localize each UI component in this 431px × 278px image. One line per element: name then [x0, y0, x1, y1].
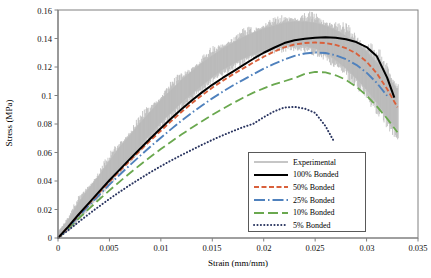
y-tick-label: 0.06 [18, 148, 52, 158]
legend-label: 25% Bonded [290, 196, 335, 205]
x-tick-label: 0.03 [347, 243, 387, 253]
plot-area [0, 0, 431, 278]
legend-item-50-bonded: 50% Bonded [249, 181, 365, 194]
y-tick-label: 0.12 [18, 62, 52, 72]
x-tick-label: 0.01 [141, 243, 181, 253]
legend-swatch-50-bonded [252, 182, 290, 192]
y-tick-label: 0.04 [18, 176, 52, 186]
legend-label: 5% Bonded [290, 221, 331, 230]
legend-item-experimental: Experimental [249, 156, 365, 169]
legend-swatch-100-bonded [252, 170, 290, 180]
x-tick-label: 0.005 [89, 243, 129, 253]
legend-swatch-5-bonded [252, 220, 290, 230]
x-axis-title: Strain (mm/mm) [58, 258, 418, 268]
legend-label: 10% Bonded [290, 208, 335, 217]
y-tick-label: 0.14 [18, 34, 52, 44]
x-tick-label: 0.02 [244, 243, 284, 253]
legend-item-5-bonded: 5% Bonded [249, 219, 365, 232]
x-tick-label: 0.035 [398, 243, 431, 253]
stress-strain-chart: 0.16 0.14 0.12 0.1 0.08 0.06 0.04 0.02 0… [0, 0, 431, 278]
legend-swatch-10-bonded [252, 208, 290, 218]
legend-item-100-bonded: 100% Bonded [249, 169, 365, 182]
x-tick-label: 0.015 [192, 243, 232, 253]
y-tick-label: 0.16 [18, 6, 52, 16]
legend-label: 50% Bonded [290, 183, 335, 192]
y-axis-title: Stress (MPa) [4, 85, 14, 161]
y-tick-label: 0.08 [18, 119, 52, 129]
y-tick-label: 0.1 [18, 91, 52, 101]
legend-swatch-experimental [252, 157, 290, 167]
legend-item-10-bonded: 10% Bonded [249, 206, 365, 219]
legend-swatch-25-bonded [252, 195, 290, 205]
legend-label: 100% Bonded [290, 170, 339, 179]
legend-item-25-bonded: 25% Bonded [249, 194, 365, 207]
y-tick-label: 0 [18, 233, 52, 243]
x-tick-label: 0.025 [295, 243, 335, 253]
x-tick-label: 0 [38, 243, 78, 253]
legend: Experimental 100% Bonded 50% Bonded 25% … [248, 152, 366, 232]
legend-label: Experimental [290, 158, 336, 167]
y-tick-label: 0.02 [18, 205, 52, 215]
